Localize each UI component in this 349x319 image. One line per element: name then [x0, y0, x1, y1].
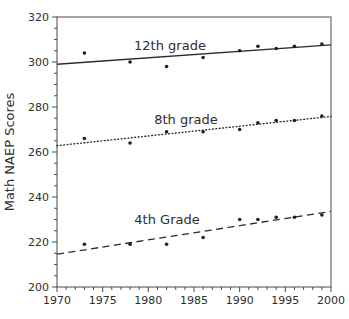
data-point — [256, 44, 260, 48]
data-point — [128, 141, 132, 145]
x-tick-label: 1990 — [226, 294, 254, 307]
data-point — [128, 242, 132, 246]
y-tick-label: 280 — [28, 101, 49, 114]
data-point — [320, 213, 324, 217]
y-tick-label: 220 — [28, 236, 49, 249]
data-point — [293, 44, 297, 48]
x-tick-label: 1995 — [271, 294, 299, 307]
data-point — [293, 119, 297, 123]
y-tick-label: 240 — [28, 191, 49, 204]
series-label: 4th Grade — [134, 212, 199, 227]
x-tick-label: 2000 — [317, 294, 345, 307]
data-point — [128, 60, 132, 64]
data-point — [320, 114, 324, 118]
x-tick-label: 1970 — [43, 294, 71, 307]
x-tick-label: 1980 — [134, 294, 162, 307]
series-label: 8th grade — [154, 112, 218, 127]
data-point — [293, 215, 297, 219]
data-point — [274, 215, 278, 219]
y-axis-title: Math NAEP Scores — [2, 92, 17, 211]
data-point — [256, 121, 260, 125]
y-tick-label: 260 — [28, 146, 49, 159]
data-point — [238, 128, 242, 132]
data-point — [83, 51, 87, 55]
data-point — [238, 49, 242, 53]
plot-frame — [57, 17, 331, 287]
data-point — [238, 218, 242, 222]
data-point — [274, 119, 278, 123]
data-point — [274, 47, 278, 51]
y-tick-label: 300 — [28, 56, 49, 69]
data-point — [201, 130, 205, 134]
data-point — [165, 65, 169, 69]
data-point — [165, 242, 169, 246]
data-point — [201, 56, 205, 60]
naep-math-scores-figure: 2002202402602803003201970197519801985199… — [0, 0, 349, 319]
data-point — [201, 236, 205, 240]
series-label: 12th grade — [134, 38, 206, 53]
data-point — [320, 42, 324, 46]
x-tick-label: 1975 — [89, 294, 117, 307]
x-tick-label: 1985 — [180, 294, 208, 307]
chart-canvas: 2002202402602803003201970197519801985199… — [0, 0, 349, 319]
data-point — [83, 242, 87, 246]
data-point — [165, 130, 169, 134]
data-point — [83, 137, 87, 141]
y-tick-label: 200 — [28, 281, 49, 294]
y-tick-label: 320 — [28, 11, 49, 24]
data-point — [256, 218, 260, 222]
